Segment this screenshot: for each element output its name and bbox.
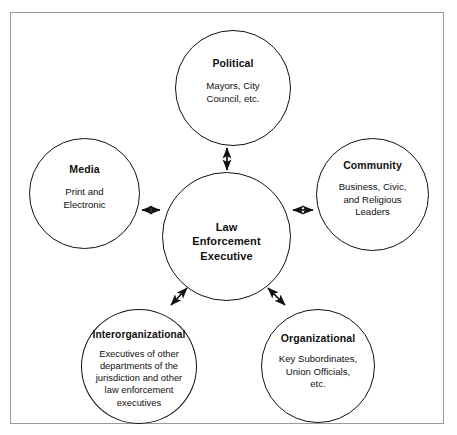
connector-center-interorganizational xyxy=(171,288,187,305)
connector-center-organizational xyxy=(268,288,285,305)
node-political: Political Mayors, City Council, etc. xyxy=(175,30,291,146)
node-political-body: Mayors, City Council, etc. xyxy=(206,80,259,105)
node-interorganizational: Interorganizational Executives of other … xyxy=(81,309,197,424)
node-community-title: Community xyxy=(343,159,402,171)
node-media-title: Media xyxy=(69,163,99,175)
node-community-body: Business, Civic, and Religious Leaders xyxy=(339,181,407,219)
diagram-canvas: Political Mayors, City Council, etc. Med… xyxy=(0,0,457,435)
node-interorganizational-title: Interorganizational xyxy=(92,329,185,341)
node-media-body: Print and Electronic xyxy=(63,186,105,211)
node-organizational: Organizational Key Subordinates, Union O… xyxy=(261,309,375,423)
node-organizational-body: Key Subordinates, Union Officials, etc. xyxy=(279,353,357,391)
node-organizational-title: Organizational xyxy=(281,332,355,344)
node-center-title: Law Enforcement Executive xyxy=(192,220,260,263)
node-interorganizational-body: Executives of other departments of the j… xyxy=(64,348,214,409)
node-media: Media Print and Electronic xyxy=(29,138,140,249)
node-community: Community Business, Civic, and Religious… xyxy=(316,138,429,251)
node-political-title: Political xyxy=(212,57,253,69)
node-law-enforcement-executive: Law Enforcement Executive xyxy=(162,172,291,301)
